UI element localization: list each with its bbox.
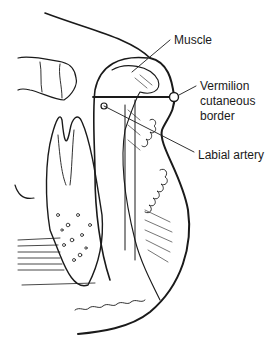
label-muscle: Muscle [174, 33, 212, 47]
label-labial-artery: Labial artery [198, 148, 264, 162]
label-vermilion-line2: cutaneous [200, 94, 255, 108]
lip-cross-section-illustration [0, 0, 279, 350]
label-vermilion-line1: Vermilion [200, 79, 249, 93]
label-vermilion-line3: border [200, 109, 235, 123]
